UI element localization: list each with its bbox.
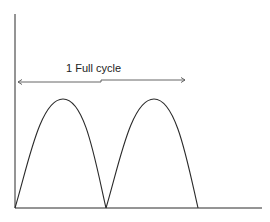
rectified-waveform (15, 99, 198, 208)
waveform-diagram (0, 0, 270, 222)
cycle-label: 1 Full cycle (66, 62, 121, 74)
waveform-hump-1 (15, 99, 106, 208)
waveform-hump-2 (106, 99, 198, 208)
full-cycle-arrow (18, 78, 185, 85)
